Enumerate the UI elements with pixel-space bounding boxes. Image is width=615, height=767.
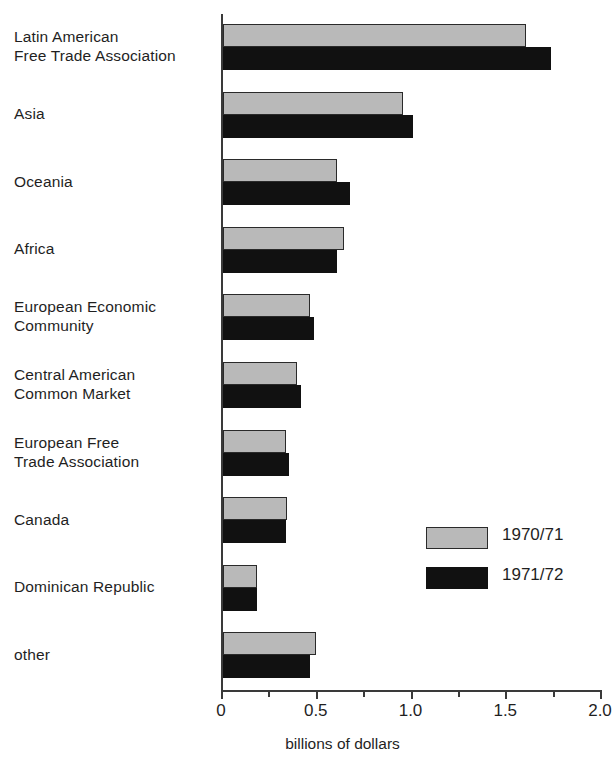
x-axis-major-tick [221, 690, 223, 699]
bar-1971-72 [223, 115, 413, 138]
bar-1970-71 [223, 632, 316, 655]
category-label: Africa [14, 239, 214, 258]
x-axis-title-text: billions of dollars [285, 735, 400, 752]
bar-1970-71 [223, 497, 287, 520]
plot-area [221, 14, 615, 690]
x-axis-minor-tick [458, 690, 460, 697]
legend-label: 1970/71 [502, 525, 563, 545]
bar-chart: Latin American Free Trade AssociationAsi… [0, 0, 615, 767]
x-axis-tick-label: 2.0 [588, 701, 612, 721]
category-label: European Free Trade Association [14, 433, 214, 471]
x-axis-major-tick [411, 690, 413, 699]
bar-1971-72 [223, 453, 289, 476]
category-label: Latin American Free Trade Association [14, 27, 214, 65]
bar-1970-71 [223, 294, 310, 317]
bar-1971-72 [223, 317, 314, 340]
bar-1971-72 [223, 655, 310, 678]
x-axis-tick-label: 0 [216, 701, 225, 721]
x-axis-tick-label: 0.5 [304, 701, 328, 721]
x-axis-minor-tick [553, 690, 555, 697]
bar-1970-71 [223, 24, 526, 47]
bar-1971-72 [223, 182, 350, 205]
category-label: Asia [14, 104, 214, 123]
legend-swatch [426, 527, 488, 549]
x-axis-tick-label: 1.5 [493, 701, 517, 721]
bar-1971-72 [223, 47, 551, 70]
bar-1971-72 [223, 250, 337, 273]
bar-1971-72 [223, 385, 301, 408]
bar-1970-71 [223, 159, 337, 182]
x-axis-minor-tick [363, 690, 365, 697]
x-axis: 00.51.01.52.0 [221, 690, 603, 691]
legend-label: 1971/72 [502, 565, 563, 585]
bar-1971-72 [223, 520, 286, 543]
category-label: Dominican Republic [14, 577, 214, 596]
x-axis-major-tick [505, 690, 507, 699]
category-label: Central American Common Market [14, 365, 214, 403]
category-label: European Economic Community [14, 297, 214, 335]
bar-1970-71 [223, 565, 257, 588]
x-axis-title: billions of dollars [0, 735, 615, 753]
bar-1970-71 [223, 362, 297, 385]
bar-1970-71 [223, 92, 403, 115]
x-axis-tick-label: 1.0 [399, 701, 423, 721]
bar-1970-71 [223, 227, 344, 250]
category-label: Canada [14, 510, 214, 529]
category-label: Oceania [14, 172, 214, 191]
x-axis-major-tick [316, 690, 318, 699]
bar-1971-72 [223, 588, 257, 611]
x-axis-minor-tick [268, 690, 270, 697]
bar-1970-71 [223, 430, 286, 453]
legend-swatch [426, 567, 488, 589]
category-label: other [14, 645, 214, 664]
x-axis-major-tick [600, 690, 602, 699]
